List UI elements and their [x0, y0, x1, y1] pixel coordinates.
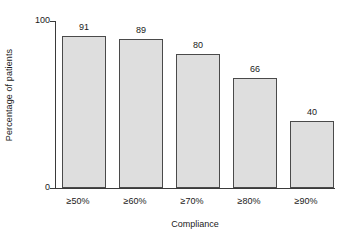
- y-axis-tick-label-0: 0: [24, 183, 50, 192]
- bar-group-3: 66: [233, 21, 277, 188]
- bar-3[interactable]: [233, 78, 277, 188]
- bar-value-label-3: 66: [219, 65, 291, 74]
- y-axis-tick-mark-0: [50, 188, 55, 189]
- bar-value-label-1: 89: [105, 26, 177, 35]
- bar-2[interactable]: [176, 54, 220, 188]
- x-axis-line: [55, 188, 335, 189]
- bar-group-4: 40: [290, 21, 334, 188]
- y-axis-tick-label-100: 100: [24, 16, 50, 25]
- x-axis-title: Compliance: [55, 219, 335, 229]
- bar-group-2: 80: [176, 21, 220, 188]
- bar-chart-figure: Percentage of patients 100 0 91 89 80 66…: [0, 0, 350, 241]
- bar-0[interactable]: [62, 36, 106, 188]
- bar-group-0: 91: [62, 21, 106, 188]
- y-axis-title-text: Percentage of patients: [4, 49, 14, 141]
- y-axis-title: Percentage of patients: [0, 0, 18, 190]
- bar-value-label-2: 80: [162, 41, 234, 50]
- bar-1[interactable]: [119, 39, 163, 188]
- plot-area: 91 89 80 66 40: [56, 21, 335, 188]
- bar-4[interactable]: [290, 121, 334, 188]
- y-axis-tick-mark-100: [50, 21, 55, 22]
- bar-value-label-4: 40: [276, 108, 348, 117]
- x-axis-tick-label-4: ≥90%: [262, 196, 350, 206]
- bar-group-1: 89: [119, 21, 163, 188]
